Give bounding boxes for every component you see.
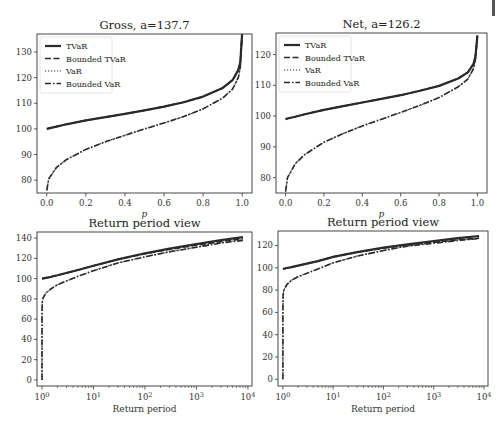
y-tick-label: 80 <box>21 294 32 304</box>
x-tick-label: 100 <box>275 391 290 403</box>
legend-label: Bounded TVaR <box>66 55 127 64</box>
x-tick-label: 101 <box>326 391 341 403</box>
chart-title: Net, a=126.2 <box>342 17 420 31</box>
x-tick-label: 0.4 <box>118 198 132 208</box>
y-tick-label: 90 <box>21 150 32 160</box>
legend-label: TVaR <box>305 41 327 50</box>
x-tick-label: 0.2 <box>317 198 331 208</box>
plot-area <box>42 237 243 380</box>
x-tick-label: 0.8 <box>196 198 210 208</box>
series-line-bounded-var <box>283 239 479 380</box>
chart-title: Gross, a=137.7 <box>99 18 189 32</box>
y-tick-label: 0 <box>27 375 32 385</box>
y-tick-label: 80 <box>21 175 32 185</box>
axes-frame <box>278 231 488 386</box>
series-line-bounded-var <box>42 240 243 380</box>
y-tick-label: 80 <box>262 285 273 295</box>
x-tick-label: 0.4 <box>356 198 370 208</box>
chart-panel-1: Gross, a=137.780901001101201300.00.20.40… <box>16 18 252 219</box>
figure: Gross, a=137.780901001101201300.00.20.40… <box>0 0 504 427</box>
y-tick-label: 140 <box>16 233 32 243</box>
legend-label: TVaR <box>66 42 88 51</box>
y-tick-label: 100 <box>257 263 273 273</box>
series-line-bounded-tvar <box>283 238 479 269</box>
y-tick-label: 110 <box>16 98 32 108</box>
x-tick-label: 103 <box>189 391 204 403</box>
legend-label: VaR <box>65 67 83 76</box>
y-tick-label: 120 <box>257 240 273 250</box>
y-tick-label: 40 <box>21 334 32 344</box>
x-tick-label: 103 <box>426 391 441 403</box>
legend-label: Bounded VaR <box>66 80 121 89</box>
x-tick-label: 102 <box>376 391 391 403</box>
chart-panel-4: Return period view0204060801001201001011… <box>257 215 492 414</box>
y-tick-label: 110 <box>255 80 271 90</box>
x-tick-label: 0.0 <box>279 198 293 208</box>
y-tick-label: 60 <box>262 307 273 317</box>
legend: TVaRBounded TVaRVaRBounded VaR <box>40 37 127 93</box>
chart-panel-2: Net, a=126.280901001101200.00.20.40.60.8… <box>255 17 487 219</box>
chart-title: Return period view <box>88 216 200 230</box>
x-tick-label: 1.0 <box>235 198 249 208</box>
axes-frame <box>37 232 252 386</box>
chart-title: Return period view <box>327 215 439 229</box>
x-tick-label: 0.8 <box>432 198 446 208</box>
x-tick-label: 1.0 <box>471 198 485 208</box>
y-tick-label: 100 <box>16 274 32 284</box>
y-tick-label: 120 <box>255 50 271 60</box>
x-tick-label: 101 <box>86 391 101 403</box>
x-tick-label: 104 <box>240 391 255 403</box>
y-tick-label: 40 <box>262 330 273 340</box>
chart-panel-3: Return period view0204060801001201401001… <box>16 216 256 414</box>
legend: TVaRBounded TVaRVaRBounded VaR <box>279 36 366 92</box>
x-axis-label: Return period <box>113 404 177 414</box>
x-axis-label: Return period <box>351 404 415 414</box>
y-tick-label: 60 <box>21 314 32 324</box>
series-line-var <box>283 238 479 380</box>
y-tick-label: 90 <box>260 142 271 152</box>
x-tick-label: 0.0 <box>40 198 54 208</box>
y-tick-label: 120 <box>16 253 32 263</box>
series-line-var <box>42 240 243 380</box>
x-tick-label: 0.2 <box>79 198 93 208</box>
y-tick-label: 20 <box>21 355 32 365</box>
x-tick-label: 104 <box>477 391 492 403</box>
x-tick-label: 102 <box>137 391 152 403</box>
x-tick-label: 0.6 <box>157 198 171 208</box>
legend-label: Bounded VaR <box>305 79 360 88</box>
legend-label: VaR <box>304 66 322 75</box>
y-tick-label: 120 <box>16 73 32 83</box>
y-tick-label: 100 <box>255 111 271 121</box>
y-tick-label: 130 <box>16 47 32 57</box>
x-tick-label: 0.6 <box>394 198 408 208</box>
y-tick-label: 80 <box>260 173 271 183</box>
legend-label: Bounded TVaR <box>305 54 366 63</box>
plot-area <box>283 236 479 379</box>
x-tick-label: 100 <box>35 391 50 403</box>
y-tick-label: 20 <box>262 352 273 362</box>
y-tick-label: 0 <box>268 374 273 384</box>
y-tick-label: 100 <box>16 124 32 134</box>
